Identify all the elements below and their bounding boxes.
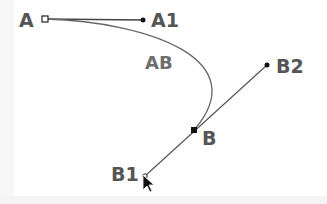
handle-point-a1[interactable]	[141, 18, 146, 23]
label-b1: B1	[111, 163, 139, 185]
label-a: A	[19, 9, 34, 31]
handle-point-b2[interactable]	[265, 63, 270, 68]
handle-line-b1-b2	[145, 65, 267, 176]
label-b: B	[202, 127, 216, 149]
label-b2: B2	[276, 55, 304, 77]
anchor-point-b[interactable]	[191, 127, 197, 133]
label-a1: A1	[151, 9, 179, 31]
label-curve-ab: AB	[145, 52, 173, 73]
mouse-pointer-icon	[143, 175, 154, 192]
bezier-diagram: A A1 AB B B2 B1	[0, 0, 327, 204]
curve-ab	[45, 19, 212, 130]
anchor-point-a[interactable]	[42, 16, 48, 22]
